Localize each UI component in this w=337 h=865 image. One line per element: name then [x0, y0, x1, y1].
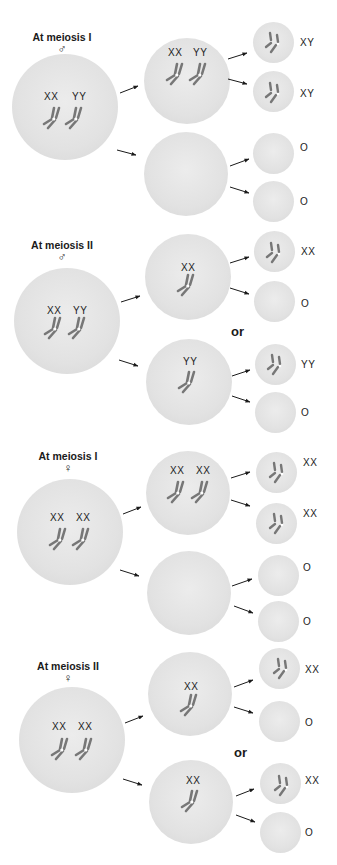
chromosome-icon	[168, 482, 183, 502]
chromatid-icon	[268, 355, 281, 374]
chromatid-icon	[266, 83, 279, 102]
arrow-icon	[120, 472, 253, 613]
chromosome-icon	[45, 318, 60, 338]
chromosome-icon	[66, 108, 81, 128]
chromatid-icon	[274, 659, 287, 678]
chromosome-icon	[167, 64, 182, 84]
chromosome-icon	[69, 318, 84, 338]
chromosome-icon	[73, 529, 88, 549]
arrow-icon	[117, 53, 249, 193]
chromosome-icon	[181, 695, 196, 715]
chromosome-icon	[192, 482, 207, 502]
chromosome-icon	[190, 64, 205, 84]
chromosome-icon	[52, 739, 67, 759]
chromosome-icon	[50, 529, 65, 549]
chromosome-icon	[44, 108, 59, 128]
arrow-icon	[119, 257, 250, 402]
chromosomes-and-arrows-layer	[0, 0, 337, 865]
chromosome-icon	[76, 739, 91, 759]
chromosome-icon	[182, 791, 197, 811]
chromatid-icon	[275, 776, 288, 795]
chromatid-icon	[270, 463, 283, 482]
chromatid-icon	[270, 514, 283, 533]
chromatid-icon	[267, 243, 280, 262]
chromosome-icon	[179, 372, 194, 392]
chromatid-icon	[266, 33, 279, 52]
chromosome-icon	[178, 275, 193, 295]
